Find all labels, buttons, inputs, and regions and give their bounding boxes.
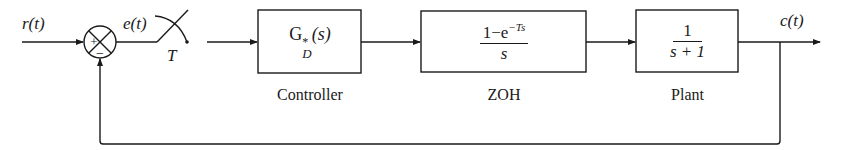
minus-sign: − [96, 46, 104, 61]
output-signal-label: c(t) [780, 11, 804, 31]
zoh-block: 1−e−Ts s [421, 11, 587, 73]
sampling-period-label: T [167, 46, 176, 66]
zoh-transfer-function: 1−e−Ts s [480, 22, 528, 63]
input-signal-label: r(t) [22, 14, 45, 34]
controller-block: G*D(s) [258, 10, 362, 74]
controller-caption: Controller [258, 86, 362, 104]
error-signal-label: e(t) [123, 14, 147, 34]
plant-caption: Plant [636, 86, 739, 104]
zoh-caption: ZOH [421, 86, 587, 104]
plant-transfer-function: 1 s + 1 [670, 22, 705, 61]
plant-block: 1 s + 1 [636, 10, 739, 73]
controller-transfer-function: G*D(s) [289, 24, 330, 59]
